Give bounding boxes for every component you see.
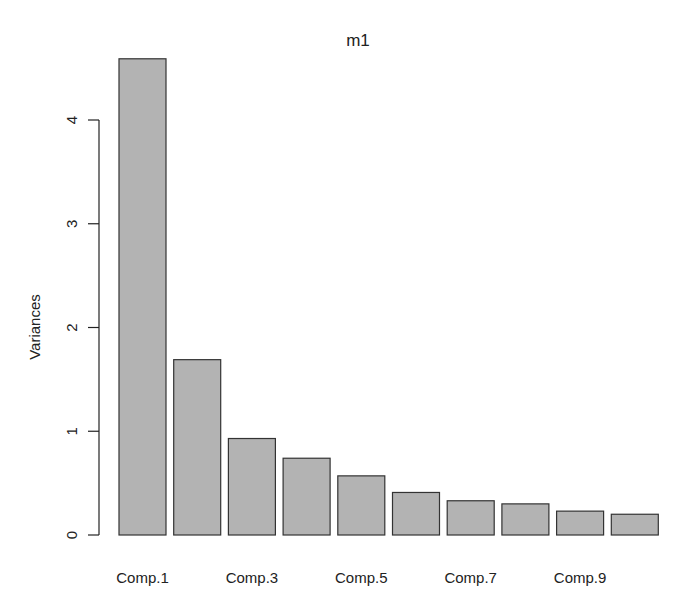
chart-title: m1 bbox=[346, 31, 370, 50]
x-tick-labels: Comp.1Comp.3Comp.5Comp.7Comp.9 bbox=[116, 569, 606, 586]
y-tick-label: 1 bbox=[63, 427, 80, 435]
y-tick-label: 4 bbox=[63, 116, 80, 124]
scree-plot: m1 Variances 01234 Comp.1Comp.3Comp.5Com… bbox=[0, 0, 679, 612]
bar-comp-8 bbox=[502, 504, 549, 535]
bar-comp-5 bbox=[338, 476, 385, 535]
bar-comp-9 bbox=[557, 511, 604, 535]
bars bbox=[119, 59, 658, 535]
bar-comp-4 bbox=[283, 458, 330, 535]
bar-comp-1 bbox=[119, 59, 166, 535]
bar-comp-6 bbox=[393, 492, 440, 535]
bar-comp-2 bbox=[174, 360, 221, 535]
x-tick-label: Comp.9 bbox=[554, 569, 607, 586]
y-axis-label: Variances bbox=[26, 294, 43, 360]
bar-comp-10 bbox=[611, 514, 658, 535]
x-tick-label: Comp.5 bbox=[335, 569, 388, 586]
bar-comp-7 bbox=[447, 501, 494, 535]
bar-comp-3 bbox=[228, 439, 275, 535]
y-tick-label: 0 bbox=[63, 531, 80, 539]
x-tick-label: Comp.3 bbox=[226, 569, 279, 586]
x-tick-label: Comp.7 bbox=[444, 569, 497, 586]
y-tick-label: 3 bbox=[63, 220, 80, 228]
y-axis: 01234 bbox=[63, 116, 99, 539]
y-tick-label: 2 bbox=[63, 323, 80, 331]
x-tick-label: Comp.1 bbox=[116, 569, 169, 586]
